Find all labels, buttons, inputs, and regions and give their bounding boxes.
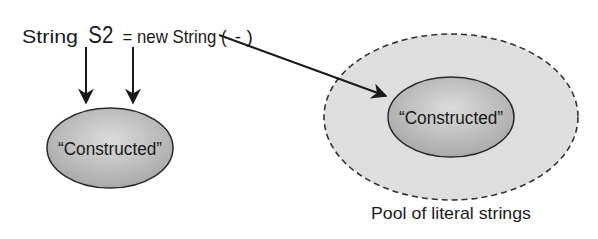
code-constructor: = new String ( [123,26,228,47]
code-argument: - [235,26,241,47]
pooled-string-object: “Constructed” [388,77,514,157]
heap-object-label: “Constructed” [58,139,162,159]
heap-string-object: “Constructed” [47,108,173,188]
literal-string-pool: “Constructed” Pool of literal strings [324,34,578,223]
svg-text:String S2 = new St: String S2 = new String ( - ) [22,22,253,48]
pool-caption: Pool of literal strings [371,204,531,223]
pool-object-label: “Constructed” [399,108,503,128]
code-close-paren: ) [246,26,252,47]
code-string-keyword: String [22,26,78,47]
code-variable: S2 [88,22,113,48]
code-line: String S2 = new String ( - ) [22,22,253,48]
string-pool-diagram: String S2 = new String ( - ) “Constructe… [0,0,598,239]
